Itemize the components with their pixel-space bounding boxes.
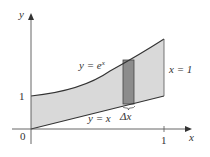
representative-strip (123, 60, 134, 104)
y-axis-arrow-icon (28, 13, 34, 20)
y-axis-label: y (18, 8, 24, 20)
y-tick-label-1: 1 (19, 90, 25, 102)
x-axis-label: x (188, 131, 194, 143)
boundary-label: x = 1 (168, 63, 192, 75)
delta-x-label: Δx (119, 110, 131, 122)
x-tick-label-1: 1 (161, 134, 167, 146)
lower-curve-label: y = x (87, 112, 111, 124)
upper-curve-label: y = ex (78, 59, 106, 71)
area-between-curves-diagram: y x 0 1 1 y = ex y = x x = 1 Δx (0, 0, 210, 157)
origin-label: 0 (20, 130, 26, 142)
